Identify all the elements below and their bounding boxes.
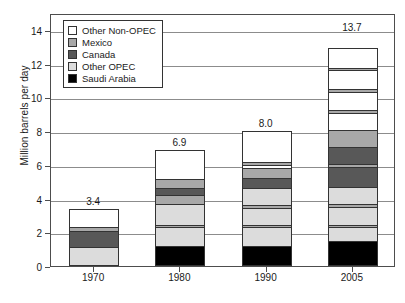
legend-swatch <box>68 26 77 35</box>
bar-segment <box>328 187 378 205</box>
bar-total-label: 3.4 <box>58 196 128 207</box>
legend-label: Saudi Arabia <box>82 73 136 84</box>
y-tick-label: 14 <box>2 25 42 36</box>
bar-segment <box>69 247 119 266</box>
legend-label: Other OPEC <box>82 61 135 72</box>
bar-segment <box>328 241 378 266</box>
bar-segment <box>69 231 119 246</box>
bar-segment <box>155 195 205 204</box>
bar-segment <box>328 70 378 89</box>
bar-segment <box>242 131 292 162</box>
bar-segment <box>155 150 205 180</box>
x-tick-label: 1990 <box>226 272 306 283</box>
x-tick-mark <box>266 267 267 272</box>
y-tick-label: 12 <box>2 59 42 70</box>
bar-1970 <box>69 209 119 266</box>
legend-label: Other Non-OPEC <box>82 25 156 36</box>
x-tick-mark <box>352 267 353 272</box>
y-tick-label: 10 <box>2 93 42 104</box>
y-tick-mark <box>45 98 50 99</box>
bar-segment <box>328 227 378 240</box>
x-tick-label: 2005 <box>312 272 392 283</box>
bar-segment <box>242 178 292 188</box>
bar-1980 <box>155 150 205 266</box>
bar-total-label: 6.9 <box>144 137 214 148</box>
y-tick-label: 4 <box>2 194 42 205</box>
y-tick-mark <box>45 65 50 66</box>
legend-swatch <box>68 50 77 59</box>
bar-segment <box>155 246 205 266</box>
bar-segment <box>328 113 378 131</box>
stacked-bar-chart: Million barrels per day 02468101214 1970… <box>0 0 405 303</box>
legend-label: Canada <box>82 49 115 60</box>
y-tick-mark <box>45 233 50 234</box>
legend-item: Canada <box>68 48 156 60</box>
bar-segment <box>328 130 378 147</box>
y-tick-label: 8 <box>2 127 42 138</box>
bar-segment <box>155 179 205 188</box>
bar-total-label: 13.7 <box>317 22 387 33</box>
legend-item: Mexico <box>68 36 156 48</box>
legend-item: Other OPEC <box>68 60 156 72</box>
legend-swatch <box>68 38 77 47</box>
bar-2005 <box>328 48 378 266</box>
y-tick-label: 6 <box>2 160 42 171</box>
bar-segment <box>328 167 378 187</box>
legend-item: Other Non-OPEC <box>68 24 156 36</box>
bar-segment <box>328 48 378 68</box>
y-tick-mark <box>45 200 50 201</box>
bar-segment <box>328 207 378 225</box>
bar-segment <box>242 168 292 177</box>
legend-item: Saudi Arabia <box>68 72 156 84</box>
legend-label: Mexico <box>82 37 112 48</box>
bar-segment <box>242 208 292 225</box>
bar-segment <box>328 92 378 111</box>
y-tick-mark <box>45 166 50 167</box>
y-tick-mark <box>45 31 50 32</box>
y-tick-mark <box>45 132 50 133</box>
y-tick-label: 0 <box>2 262 42 273</box>
bar-total-label: 8.0 <box>231 118 301 129</box>
bar-segment <box>69 209 119 228</box>
bar-segment <box>155 227 205 246</box>
bar-segment <box>328 147 378 164</box>
y-tick-label: 2 <box>2 228 42 239</box>
x-tick-label: 1970 <box>53 272 133 283</box>
x-tick-label: 1980 <box>139 272 219 283</box>
bar-segment <box>242 188 292 206</box>
chart-legend: Other Non-OPECMexicoCanadaOther OPECSaud… <box>63 20 163 88</box>
bar-segment <box>242 227 292 246</box>
y-tick-mark <box>45 267 50 268</box>
bar-segment <box>155 188 205 195</box>
bar-1990 <box>242 131 292 266</box>
bar-segment <box>242 246 292 266</box>
legend-swatch <box>68 62 77 71</box>
x-tick-mark <box>179 267 180 272</box>
y-axis-title: Million barrels per day <box>19 16 30 216</box>
legend-swatch <box>68 74 77 83</box>
x-tick-mark <box>93 267 94 272</box>
bar-segment <box>155 204 205 224</box>
